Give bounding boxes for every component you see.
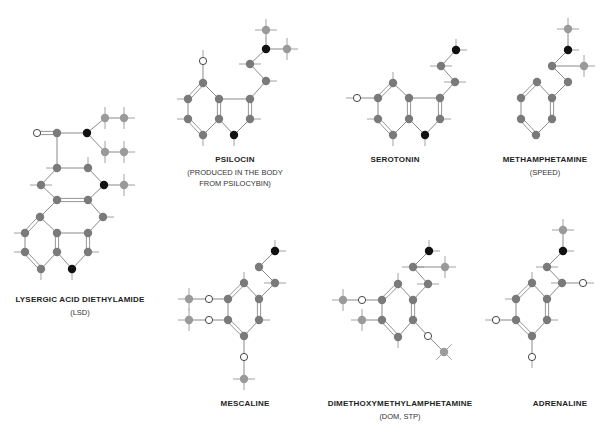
molecule-diagram (0, 0, 608, 434)
molecule-name: MESCALINE (190, 399, 300, 408)
carbon-atom (389, 79, 397, 87)
carbon-atom (378, 296, 386, 304)
carbon-atom (548, 94, 556, 102)
methyl-carbon-atom (283, 45, 291, 53)
molecule-psilocin (177, 19, 298, 146)
hydrogen-stubs (485, 219, 594, 368)
molecule-mescaline (178, 240, 286, 390)
hydrogen-stubs (178, 240, 286, 390)
methyl-carbon-atom (559, 226, 567, 234)
nitrogen-atom (68, 265, 76, 273)
nitrogen-atom (425, 247, 433, 255)
carbon-atom (84, 248, 92, 256)
carbon-atom (84, 196, 92, 204)
carbon-atom (246, 60, 254, 68)
methyl-carbon-atom (120, 181, 128, 189)
atoms (21, 114, 128, 273)
methyl-carbon-atom (358, 316, 366, 324)
carbon-atom (255, 295, 263, 303)
molecule-serotonin (346, 39, 467, 146)
bonds (24, 118, 124, 270)
molecule-name: LYSERGIC ACID DIETHYLAMIDE (0, 295, 160, 304)
carbon-atom (517, 115, 525, 123)
carbon-atom (517, 94, 525, 102)
molecule-methamphetamine (517, 18, 595, 139)
molecule-name: DIMETHOXYMETHYLAMPHETAMINE (305, 399, 495, 408)
nitrogen-atom (271, 247, 279, 255)
hydrogen-stub (436, 355, 441, 360)
carbon-atom (21, 229, 29, 237)
atoms (353, 46, 460, 139)
methyl-carbon-atom (240, 375, 248, 383)
hydrogen-stub (447, 355, 452, 360)
hydrogen-stubs (346, 39, 467, 146)
carbon-atom (53, 129, 61, 137)
carbon-atom (21, 248, 29, 256)
carbon-atom (548, 62, 556, 70)
methyl-carbon-atom (185, 316, 193, 324)
oxygen-atom (33, 129, 40, 136)
atoms (339, 247, 449, 356)
molecule-subtitle: (SPEED) (485, 167, 605, 178)
nitrogen-atom (421, 131, 429, 139)
methyl-carbon-atom (440, 348, 448, 356)
oxygen-atom (579, 279, 586, 286)
carbon-atom (528, 279, 536, 287)
methyl-carbon-atom (120, 114, 128, 122)
molecule-dom (332, 240, 456, 360)
oxygen-atom (424, 332, 431, 339)
carbon-atom (548, 115, 556, 123)
carbon-atom (409, 316, 417, 324)
molecule-subtitle: (DOM, STP) (305, 411, 495, 422)
carbon-atom (543, 263, 551, 271)
oxygen-atom (353, 94, 360, 101)
nitrogen-atom (452, 46, 460, 54)
methyl-carbon-atom (262, 26, 270, 34)
atoms (517, 25, 588, 139)
molecule-name: ADRENALINE (515, 399, 605, 408)
carbon-atom (451, 78, 459, 86)
nitrogen-atom (262, 45, 270, 53)
nitrogen-atom (230, 131, 238, 139)
carbon-atom (394, 280, 402, 288)
carbon-atom (246, 95, 254, 103)
label-dom: DIMETHOXYMETHYLAMPHETAMINE (DOM, STP) (305, 399, 495, 422)
carbon-atom (84, 164, 92, 172)
carbon-atom (84, 229, 92, 237)
label-serotonin: SEROTONIN (325, 155, 465, 164)
carbon-atom (409, 296, 417, 304)
carbon-atom (405, 94, 413, 102)
methyl-carbon-atom (101, 148, 109, 156)
oxygen-atom (240, 353, 247, 360)
nitrogen-atom (100, 181, 108, 189)
carbon-atom (240, 332, 248, 340)
methyl-carbon-atom (101, 114, 109, 122)
oxygen-atom (199, 57, 206, 64)
carbon-atom (99, 213, 107, 221)
carbon-atom (424, 280, 432, 288)
carbon-atom (199, 131, 207, 139)
molecule-name: METHAMPHETAMINE (485, 155, 605, 164)
carbon-atom (389, 131, 397, 139)
bonds (189, 251, 275, 379)
oxygen-atom (528, 353, 535, 360)
carbon-atom (215, 95, 223, 103)
molecule-adrenaline (485, 219, 594, 368)
molecule-subtitle: (PRODUCED IN THE BODY FROM PSILOCYBIN) (160, 167, 310, 189)
molecule-name: SEROTONIN (325, 155, 465, 164)
carbon-atom (437, 62, 445, 70)
label-psilocin: PSILOCIN (PRODUCED IN THE BODY FROM PSIL… (160, 155, 310, 189)
carbon-atom (558, 279, 566, 287)
carbon-atom (512, 295, 520, 303)
oxygen-atom (358, 296, 365, 303)
carbon-atom (533, 78, 541, 86)
carbon-atom (262, 77, 270, 85)
atoms (184, 26, 291, 139)
carbon-atom (528, 332, 536, 340)
carbon-atom (53, 164, 61, 172)
label-methamphetamine: METHAMPHETAMINE (SPEED) (485, 155, 605, 178)
carbon-atom (543, 295, 551, 303)
molecule-lsd (14, 107, 135, 280)
atoms (185, 247, 279, 383)
carbon-atom (436, 115, 444, 123)
